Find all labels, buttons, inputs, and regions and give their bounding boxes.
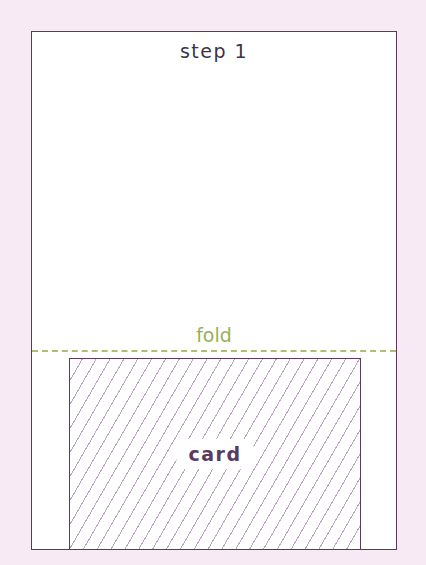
card-label: card	[176, 439, 253, 469]
card-area: card	[69, 358, 361, 549]
step-title: step 1	[32, 40, 396, 62]
fold-label: fold	[32, 324, 396, 346]
fold-line	[32, 350, 396, 352]
paper-sheet: step 1 fold card	[31, 31, 397, 550]
